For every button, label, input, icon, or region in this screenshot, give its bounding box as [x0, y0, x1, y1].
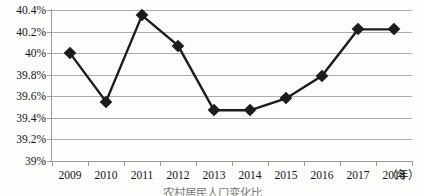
x-axis-tick — [124, 161, 125, 166]
x-axis-tick-label: 2012 — [167, 168, 190, 182]
x-axis-tick — [88, 161, 89, 166]
x-axis-tick — [340, 161, 341, 166]
x-axis-tick-label: 2017 — [347, 168, 370, 182]
x-axis-tick — [196, 161, 197, 166]
x-axis-tick — [268, 161, 269, 166]
x-axis-tick — [304, 161, 305, 166]
x-axis-tick-label: 2011 — [131, 168, 154, 182]
x-axis-tick — [232, 161, 233, 166]
x-axis-tick-label: 2014 — [239, 168, 262, 182]
x-axis-tick-label: 2013 — [203, 168, 226, 182]
figure-caption: 农村居民人口变化比 — [0, 187, 424, 196]
chart-figure: 39%39.2%39.4%39.6%39.8%40%40.2%40.4% 200… — [0, 0, 424, 196]
x-axis-tick-labels: 2009201020112012201320142015201620172018 — [0, 168, 424, 184]
x-axis-tick — [52, 161, 53, 166]
x-axis-tick-label: 2010 — [95, 168, 118, 182]
x-axis-tick — [160, 161, 161, 166]
x-axis-tick-label: 2016 — [311, 168, 334, 182]
x-axis-tick — [412, 161, 413, 166]
series-line — [0, 0, 424, 196]
x-axis-tick — [376, 161, 377, 166]
x-axis-tick-label: 2009 — [59, 168, 82, 182]
x-axis-tick-label: 2015 — [275, 168, 298, 182]
x-axis-unit-label: （年） — [386, 168, 419, 182]
